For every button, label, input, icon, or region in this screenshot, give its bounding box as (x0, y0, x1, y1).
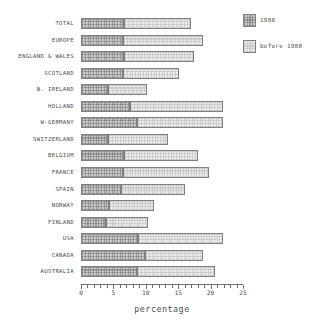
x-tick-minor (107, 285, 108, 288)
bar-segment (81, 68, 123, 79)
category-label: HOLLAND (0, 104, 74, 110)
category-label: BELGIUM (0, 153, 74, 159)
stacked-bar-chart: TOTALEUROPEENGLAND & WALESSCOTLANDN. IRE… (0, 0, 327, 327)
x-tick-minor (198, 285, 199, 288)
category-axis-labels: TOTALEUROPEENGLAND & WALESSCOTLANDN. IRE… (0, 16, 77, 284)
bar-segment (123, 35, 203, 46)
category-label: N. IRELAND (0, 87, 74, 93)
category-label: ENGLAND & WALES (0, 54, 74, 60)
legend-swatch-1988 (243, 14, 256, 27)
bar-segment (81, 233, 138, 244)
bar-segment (81, 84, 108, 95)
x-tick-minor (230, 285, 231, 288)
x-tick-minor (120, 285, 121, 288)
category-label: AUSTRALIA (0, 269, 74, 275)
bar-segment (81, 18, 124, 29)
bar-segment (81, 51, 124, 62)
x-axis-title: percentage (81, 304, 243, 314)
bar-segment (81, 184, 121, 195)
x-tick-minor (237, 285, 238, 288)
bar-segment (81, 150, 124, 161)
bar-segment (81, 134, 108, 145)
category-label: SWITZERLAND (0, 137, 74, 143)
bar-segment (81, 217, 106, 228)
bar-segment (130, 101, 223, 112)
x-tick-minor (133, 285, 134, 288)
x-tick-minor (159, 285, 160, 288)
x-tick-minor (217, 285, 218, 288)
x-tick-minor (100, 285, 101, 288)
legend-label: 1988 (260, 18, 275, 24)
bar-segment (137, 266, 215, 277)
bar-segment (81, 117, 137, 128)
x-tick-label: 25 (233, 290, 253, 296)
bar-segment (123, 68, 179, 79)
bar-segment (81, 167, 123, 178)
x-tick-minor (152, 285, 153, 288)
x-axis-line (81, 284, 243, 285)
category-label: CANADA (0, 253, 74, 259)
x-tick-minor (87, 285, 88, 288)
bar-segment (138, 233, 223, 244)
bar-segment (108, 84, 147, 95)
bar-segment (124, 150, 199, 161)
bar-segment (123, 167, 209, 178)
category-label: W-GERMANY (0, 120, 74, 126)
bar-segment (81, 101, 130, 112)
x-tick-label: 5 (103, 290, 123, 296)
x-tick-minor (191, 285, 192, 288)
legend-swatch-before-1988 (243, 40, 256, 53)
x-tick-minor (172, 285, 173, 288)
chart-legend: 1988before 1988 (243, 14, 327, 60)
x-tick-label: 20 (201, 290, 221, 296)
x-tick-label: 10 (136, 290, 156, 296)
bar-segment (108, 134, 169, 145)
bar-segment (124, 51, 194, 62)
x-tick-minor (204, 285, 205, 288)
category-label: EUROPE (0, 38, 74, 44)
x-tick-minor (224, 285, 225, 288)
bar-segment (145, 250, 204, 261)
plot-area (81, 16, 243, 284)
category-label: FINLAND (0, 220, 74, 226)
category-label: TOTAL (0, 21, 74, 27)
x-tick-label: 0 (71, 290, 91, 296)
bar-segment (81, 266, 137, 277)
bar-segment (109, 200, 154, 211)
x-tick-minor (94, 285, 95, 288)
x-tick-minor (139, 285, 140, 288)
bar-segment (121, 184, 185, 195)
category-label: SPAIN (0, 187, 74, 193)
x-tick-label: 15 (168, 290, 188, 296)
bar-segment (81, 200, 109, 211)
bar-segment (106, 217, 148, 228)
x-tick-minor (185, 285, 186, 288)
category-label: FRANCE (0, 170, 74, 176)
bar-segment (81, 250, 145, 261)
bar-segment (81, 35, 123, 46)
legend-label: before 1988 (260, 44, 302, 50)
category-label: USA (0, 236, 74, 242)
category-label: SCOTLAND (0, 71, 74, 77)
x-tick-minor (126, 285, 127, 288)
category-label: NORWAY (0, 203, 74, 209)
bar-segment (137, 117, 223, 128)
bar-segment (124, 18, 191, 29)
x-tick-minor (165, 285, 166, 288)
